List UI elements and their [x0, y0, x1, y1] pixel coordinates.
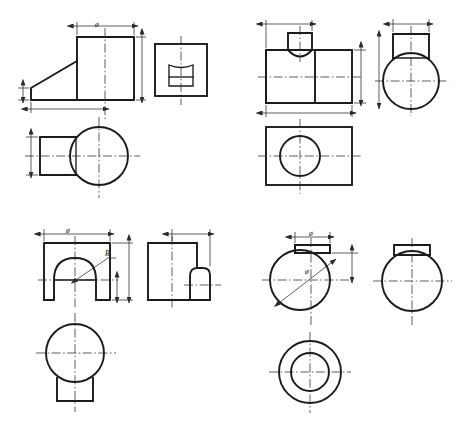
dim-length-bottom	[27, 102, 109, 113]
dim-boss-width-tr	[262, 20, 316, 48]
dim-height-right-bl	[112, 240, 133, 303]
dim-width-top	[73, 22, 138, 35]
dim-length-bottom-tr	[262, 105, 356, 117]
technical-drawing-canvas	[0, 0, 465, 437]
dim-height-right-tr	[354, 47, 366, 106]
dim-diameter-leader-br	[279, 259, 336, 303]
group-bottom-right	[262, 232, 452, 413]
dim-height-right	[136, 34, 146, 103]
drawing-sheet: ø ø R ø ø	[0, 0, 465, 437]
dim-boss-width-br	[291, 232, 334, 243]
group-bottom-left	[36, 229, 221, 412]
front-view-outline-tr	[266, 33, 352, 103]
group-top-left	[18, 22, 207, 198]
dim-height-right-br	[332, 250, 358, 283]
group-top-right	[258, 19, 449, 194]
dim-height-left	[18, 85, 29, 103]
front-view-outline-bl	[44, 243, 110, 300]
dim-side-width-bl	[168, 229, 214, 266]
dim-width-top-bl	[40, 229, 114, 241]
front-view-outline-br	[270, 245, 330, 310]
side-view-outline-bl	[148, 243, 210, 300]
front-view-outline	[31, 37, 134, 100]
